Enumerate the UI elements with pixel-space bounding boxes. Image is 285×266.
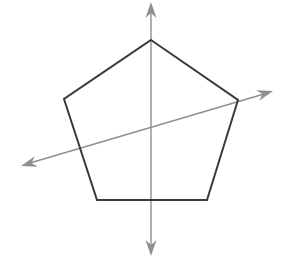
figure-container: Regular pentagon with two lines of symme… (0, 0, 285, 266)
pentagon-symmetry-diagram: Regular pentagon with two lines of symme… (0, 0, 285, 266)
diagram-background (0, 0, 285, 266)
